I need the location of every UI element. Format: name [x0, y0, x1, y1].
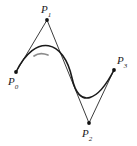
control-point-p0-dot [14, 70, 18, 74]
control-point-p1-label-name: P [41, 3, 48, 15]
control-point-p0-label-name: P [8, 75, 15, 87]
control-point-p2-label: P2 [82, 128, 92, 142]
control-point-p1-label-subscript: 1 [48, 11, 52, 19]
bezier-curve-path [16, 46, 114, 99]
control-point-p0-label: P0 [8, 76, 18, 90]
control-point-p2-dot [87, 121, 91, 125]
control-point-p3-label: P3 [117, 55, 127, 69]
bezier-diagram-svg [0, 0, 137, 146]
control-point-p2-label-subscript: 2 [89, 135, 93, 143]
control-point-p3-label-subscript: 3 [124, 62, 128, 70]
bezier-figure: P0 P1 P2 P3 [0, 0, 137, 146]
control-polygon-path [16, 20, 114, 123]
control-point-p3-label-name: P [117, 54, 124, 66]
control-point-p2-label-name: P [82, 127, 89, 139]
control-point-p0-label-subscript: 0 [15, 83, 19, 91]
bezier-curve-highlight [34, 54, 48, 56]
control-point-p1-label: P1 [41, 4, 51, 18]
control-point-p3-dot [112, 68, 116, 72]
